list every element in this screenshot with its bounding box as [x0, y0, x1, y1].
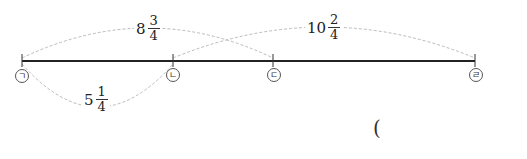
whole-part: 8: [136, 20, 146, 38]
arc-label-a-b: 5 1 4: [82, 85, 110, 114]
point-label-b: ㄴ: [166, 68, 180, 82]
fraction: 1 4: [96, 85, 108, 114]
number-line-diagram: [0, 0, 527, 159]
arc-label-a-c: 8 3 4: [134, 14, 162, 43]
point-label-c: ㄷ: [267, 68, 281, 82]
fraction: 3 4: [148, 14, 160, 43]
point-label-d: ㄹ: [469, 68, 483, 82]
numerator: 1: [96, 85, 108, 100]
numerator: 3: [148, 14, 160, 29]
denominator: 4: [98, 100, 106, 114]
numerator: 2: [328, 13, 340, 28]
answer-paren: (: [373, 116, 381, 140]
denominator: 4: [150, 29, 158, 43]
point-label-a: ㄱ: [15, 69, 29, 83]
fraction: 2 4: [328, 13, 340, 42]
whole-part: 10: [307, 19, 326, 37]
arc-label-b-d: 10 2 4: [305, 13, 342, 42]
whole-part: 5: [84, 91, 94, 109]
denominator: 4: [330, 28, 338, 42]
